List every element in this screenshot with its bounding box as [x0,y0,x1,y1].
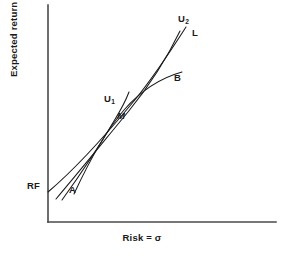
label-a: A [69,185,76,195]
chart-canvas [0,0,284,256]
figure-capital-market-line: U2 L B U1 M RF A Risk = σ Expected retur… [0,0,284,256]
label-u1: U1 [104,94,115,104]
label-u2-subscript: 2 [185,18,189,25]
label-u2: U2 [178,14,189,24]
x-axis-label: Risk = σ [0,232,284,243]
label-m: M [117,111,125,121]
label-u1-subscript: 1 [111,98,115,105]
efficient-frontier-curve [74,72,182,194]
y-axis-label: Expected return [8,2,19,77]
label-b: B [174,73,181,83]
label-l: L [192,28,198,38]
label-rf: RF [27,181,40,191]
